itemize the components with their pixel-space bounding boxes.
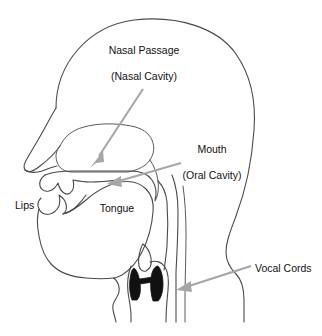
- lower-lip-teeth-path: [38, 195, 86, 214]
- arrow-nasal-cavity: [90, 89, 143, 168]
- upper-lip-teeth-path: [40, 175, 118, 194]
- label-oral-cavity: (Oral Cavity): [183, 169, 242, 181]
- label-nasal-cavity: (Nasal Cavity): [111, 70, 177, 82]
- spine-line-path: [183, 186, 186, 322]
- brow-and-nose-bridge-path: [24, 108, 60, 171]
- vocal-tract-illustration: Nasal Passage (Nasal Cavity) Mouth (Oral…: [0, 0, 322, 336]
- throat-front-path: [113, 278, 119, 322]
- pharynx-back-wall-path: [158, 181, 168, 270]
- arrow-vocal-cords-head: [176, 281, 192, 292]
- epiglottis-path: [139, 244, 152, 271]
- label-lips: Lips: [15, 199, 34, 211]
- tongue-path: [63, 182, 153, 278]
- arrow-nasal-cavity-shaft: [99, 89, 143, 156]
- chin-jaw-path: [38, 209, 115, 279]
- arrow-oral-cavity: [107, 163, 181, 187]
- velum-path: [150, 160, 158, 201]
- pharynx-inner-wall-path: [172, 175, 178, 322]
- label-vocal-cords: Vocal Cords: [255, 262, 312, 274]
- vocal-cords-posterior-icon: [151, 266, 163, 301]
- arrow-nasal-cavity-head: [90, 151, 104, 168]
- label-nasal-passage: Nasal Passage: [109, 44, 180, 56]
- label-tongue: Tongue: [100, 202, 135, 214]
- nose-underside-path: [25, 166, 57, 172]
- vocal-tract-diagram: Nasal Passage (Nasal Cavity) Mouth (Oral…: [0, 0, 322, 336]
- label-mouth: Mouth: [197, 143, 226, 155]
